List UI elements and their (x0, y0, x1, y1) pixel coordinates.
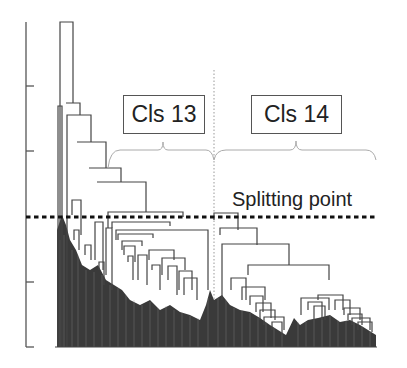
y-axis (26, 22, 34, 347)
brace-cls-14 (214, 141, 376, 160)
dendrogram-figure (0, 0, 407, 368)
brace-cls-13 (108, 142, 214, 168)
cluster-label-cls-14: Cls 14 (251, 95, 342, 134)
cluster-label-cls-13: Cls 13 (123, 95, 205, 134)
dendrogram-leaves (57, 215, 376, 347)
splitting-point-label: Splitting point (232, 188, 352, 211)
